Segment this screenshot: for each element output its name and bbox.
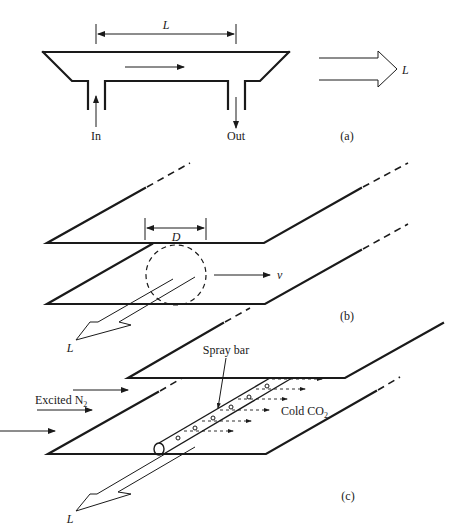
- discharge-tube: [43, 52, 289, 109]
- diameter-dimension: D: [145, 218, 206, 244]
- spray-bar-pointer: [218, 358, 226, 408]
- output-beam-arrow: [76, 447, 195, 511]
- output-beam-arrow: [319, 51, 397, 87]
- diameter-label: D: [171, 230, 181, 244]
- panel-b-transverse-flow: D v L (b): [47, 163, 408, 355]
- upper-plate: [128, 308, 443, 378]
- output-beam-arrow: [76, 277, 195, 340]
- spray-bar: [154, 378, 292, 455]
- output-beam-label: L: [66, 341, 74, 355]
- cold-co2-label: Cold CO2: [281, 404, 328, 420]
- length-label: L: [162, 18, 170, 32]
- length-dimension: L: [96, 18, 236, 44]
- inlet-label: In: [91, 129, 101, 143]
- outlet-label: Out: [227, 129, 246, 143]
- beam-cross-section: [146, 245, 206, 305]
- spray-bar-label: Spray bar: [203, 343, 249, 357]
- output-beam-label: L: [66, 512, 74, 526]
- panel-c-caption: (c): [341, 489, 354, 503]
- upper-plate: [47, 163, 408, 243]
- panel-a-longitudinal-flow: L In Out L (a): [43, 18, 409, 143]
- lower-plate: [48, 377, 400, 454]
- excited-n2-label: Excited N2: [35, 393, 87, 409]
- panel-a-caption: (a): [340, 129, 353, 143]
- laser-flow-diagram: L In Out L (a): [0, 0, 458, 529]
- lower-plate: [47, 224, 408, 304]
- velocity-label: v: [277, 268, 283, 282]
- excited-n2-inflow: Excited N2: [0, 390, 128, 431]
- panel-b-caption: (b): [340, 309, 354, 323]
- output-beam-label: L: [401, 63, 409, 77]
